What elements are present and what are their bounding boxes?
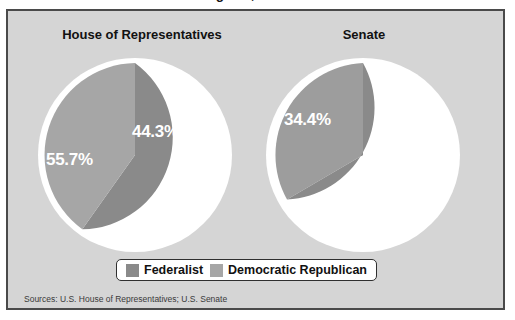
legend-swatch-democratic-republican [210, 264, 223, 277]
legend-item-federalist: Federalist [126, 263, 203, 277]
legend-item-democratic-republican: Democratic Republican [210, 263, 367, 277]
pie-chart-senate: 34.4% 65.6% [262, 55, 472, 255]
chart-panel: House of Representatives Senate 44.3% 55… [6, 9, 505, 310]
chart-title-senate: Senate [258, 27, 470, 42]
pie-value-house-federalist: 44.3% [132, 122, 179, 142]
legend-swatch-federalist [126, 264, 139, 277]
legend-label-federalist: Federalist [144, 263, 203, 277]
source-note: Sources: U.S. House of Representatives; … [24, 294, 227, 304]
pie-value-senate-democratic-republican: 65.6% [368, 153, 415, 173]
pie-chart-house: 44.3% 55.7% [32, 55, 242, 255]
pie-value-senate-federalist: 34.4% [284, 110, 331, 130]
figure-container: Political Parties in the Fourth Congress… [0, 0, 515, 320]
pie-svg-senate [262, 55, 472, 255]
chart-legend: Federalist Democratic Republican [116, 259, 377, 281]
pie-value-house-democratic-republican: 55.7% [46, 150, 93, 170]
chart-title-house: House of Representatives [22, 27, 262, 42]
legend-label-democratic-republican: Democratic Republican [228, 263, 367, 277]
figure-title: Political Parties in the Fourth Congress… [6, 0, 506, 2]
